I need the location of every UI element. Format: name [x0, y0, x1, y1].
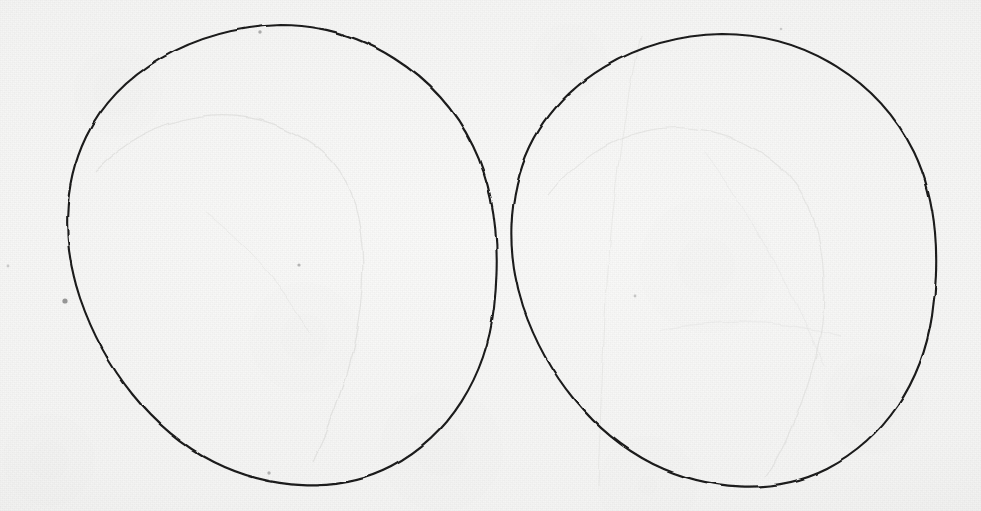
faint-pencil-smudge-lower-right	[660, 322, 842, 336]
faint-pencil-crease-right	[598, 36, 640, 486]
speck-1	[62, 298, 67, 303]
speck-4	[267, 471, 270, 474]
drawing-layer	[0, 0, 981, 511]
speck-3	[297, 263, 300, 266]
speck-7	[7, 265, 10, 268]
paper-specks-group	[7, 28, 783, 475]
faint-pencil-arc-left	[96, 116, 363, 462]
page-canvas	[0, 0, 981, 511]
faint-pencil-marks-group	[96, 36, 842, 486]
left-circle-stroke	[67, 25, 496, 485]
faint-pencil-arc-left-2	[205, 213, 312, 337]
speck-5	[634, 295, 637, 298]
faint-pencil-arc-right	[548, 128, 824, 478]
right-circle	[511, 34, 936, 487]
right-circle-stroke	[511, 34, 936, 487]
speck-2	[258, 30, 261, 33]
faint-pencil-crease-right-2	[704, 152, 824, 366]
left-circle	[67, 25, 496, 485]
speck-6	[780, 28, 783, 31]
